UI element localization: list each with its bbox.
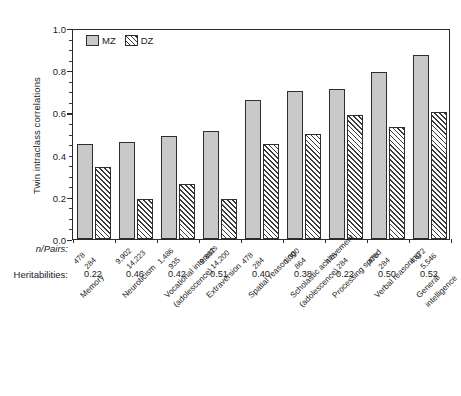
x-axis-tick (325, 239, 326, 243)
bar-mz (119, 142, 136, 239)
y-axis-tick-label: 0.2 (40, 192, 66, 203)
x-axis-tick (241, 239, 242, 243)
legend-swatch-dz-icon (125, 35, 138, 46)
legend-item-mz: MZ (86, 35, 116, 46)
y-axis-tick-label: 0.4 (40, 150, 66, 161)
legend-swatch-mz-icon (86, 35, 99, 46)
bar-mz (371, 72, 388, 239)
bars-layer (73, 30, 449, 239)
bar-mz (161, 136, 178, 239)
bar-group (371, 30, 406, 239)
bar-group (245, 30, 280, 239)
legend: MZ DZ (86, 35, 153, 46)
npairs-row-label-text: n/Pairs: (36, 243, 68, 254)
x-axis-tick (409, 239, 410, 243)
bar-dz (221, 199, 238, 239)
bar-dz (305, 134, 322, 240)
twin-correlation-bar-chart: Twin intraclass correlations 0.00.20.40.… (0, 0, 461, 396)
x-axis-tick (73, 239, 74, 243)
bar-group (161, 30, 196, 239)
bar-dz (347, 115, 364, 239)
bar-mz (413, 55, 430, 239)
y-axis-tick-label: 0.6 (40, 108, 66, 119)
plot-area (72, 29, 450, 240)
bar-group (203, 30, 238, 239)
bar-dz (179, 184, 196, 239)
bar-group (119, 30, 154, 239)
bar-group (413, 30, 448, 239)
legend-label-mz: MZ (102, 35, 116, 46)
bar-dz (95, 167, 112, 239)
bar-dz (389, 127, 406, 239)
bar-dz (431, 112, 448, 239)
bar-mz (77, 144, 94, 239)
bar-mz (287, 91, 304, 239)
bar-group (77, 30, 112, 239)
heritability-row-label: Heritabilities: (0, 269, 68, 280)
bar-group (287, 30, 322, 239)
x-axis-tick (115, 239, 116, 243)
x-axis-tick (367, 239, 368, 243)
x-axis-tick (199, 239, 200, 243)
legend-item-dz: DZ (125, 35, 154, 46)
x-axis-tick (157, 239, 158, 243)
bar-dz (263, 144, 280, 239)
legend-label-dz: DZ (141, 35, 154, 46)
bar-mz (329, 89, 346, 239)
y-axis-tick-labels: 0.00.20.40.60.81.0 (38, 29, 66, 240)
x-axis-tick (451, 239, 452, 243)
bar-mz (203, 131, 220, 239)
y-axis-major-tick (67, 240, 73, 241)
bar-mz (245, 100, 262, 239)
x-axis-tick (283, 239, 284, 243)
bar-dz (137, 199, 154, 239)
bar-group (329, 30, 364, 239)
y-axis-tick-label: 0.8 (40, 66, 66, 77)
y-axis-tick-label: 1.0 (40, 24, 66, 35)
npairs-row-label: n/Pairs: (0, 243, 68, 254)
